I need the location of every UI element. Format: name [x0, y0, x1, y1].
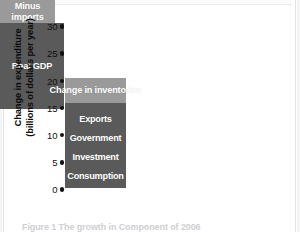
bar-expenditure-components[interactable]: Change in inventories Exports Government… [65, 78, 126, 188]
y-tick-dot-10 [60, 133, 64, 137]
y-tick-5: 5 [26, 156, 64, 168]
y-tick-label-0: 0 [52, 184, 57, 195]
y-tick-dot-25 [60, 51, 64, 55]
bar-segment-change-in-inventories[interactable]: Change in inventories [65, 78, 126, 103]
bar-segment-label-consumption: Consumption [65, 171, 126, 181]
y-tick-label-25: 25 [47, 48, 57, 59]
y-tick-25: 25 [26, 47, 64, 59]
y-tick-label-10: 10 [47, 130, 57, 141]
figure-caption: Figure 1 The growth in Component of 2006 [22, 222, 284, 232]
y-tick-10: 10 [26, 129, 64, 141]
bar-segment-group-dark[interactable]: Exports Government Investment Consumptio… [65, 103, 126, 188]
y-tick-15: 15 [26, 102, 64, 114]
y-tick-dot-5 [60, 160, 64, 164]
y-tick-label-30: 30 [47, 21, 57, 32]
y-tick-0: 0 [26, 183, 64, 195]
y-tick-dot-30 [60, 24, 64, 28]
plot-area: Change in expenditure (billions of dolla… [0, 0, 300, 210]
bar-segment-label-government: Government [65, 133, 126, 143]
y-tick-label-5: 5 [52, 157, 57, 168]
y-axis-title-line1: Change in expenditure [12, 29, 23, 127]
bar-segment-label-investment: Investment [65, 152, 126, 162]
y-tick-30: 30 [26, 20, 64, 32]
bar-segment-label-change-in-inventories-line1: Change in inventories [50, 85, 142, 96]
y-tick-dot-0 [60, 187, 64, 191]
y-tick-label-15: 15 [47, 103, 57, 114]
figure-container: Change in expenditure (billions of dolla… [0, 0, 300, 232]
y-tick-dot-20 [60, 79, 64, 83]
y-tick-dot-15 [60, 106, 64, 110]
bar-segment-label-exports: Exports [65, 114, 126, 124]
